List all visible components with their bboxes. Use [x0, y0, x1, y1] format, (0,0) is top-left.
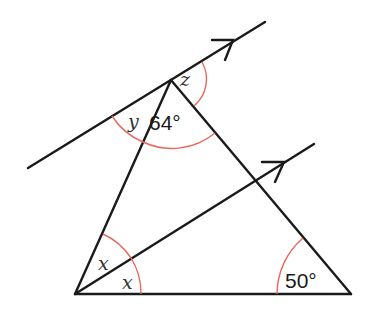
label-50: 50° — [285, 269, 317, 292]
geometry-diagram: y 64° z x x 50° — [0, 0, 370, 318]
label-64: 64° — [149, 111, 181, 134]
label-x-lower: x — [122, 271, 133, 293]
label-x-upper: x — [98, 252, 109, 274]
upper-parallel-line — [28, 22, 265, 168]
label-z: z — [179, 68, 191, 90]
lower-parallel-line — [75, 144, 314, 294]
label-y: y — [127, 110, 139, 132]
angle-arc-z — [194, 62, 207, 106]
angle-arc-64 — [143, 133, 215, 148]
triangle-right-side — [171, 80, 351, 294]
